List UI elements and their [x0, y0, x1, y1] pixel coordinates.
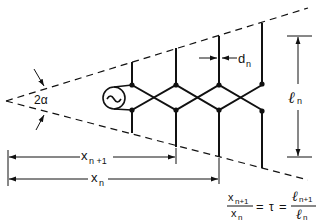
svg-text:=: = — [279, 199, 287, 214]
x-n-label: x — [91, 170, 98, 185]
svg-text:ℓ: ℓ — [296, 207, 302, 222]
ac-source-icon — [103, 85, 132, 110]
x-n-plus-1-sub: n +1 — [89, 156, 107, 166]
svg-text:n+1: n+1 — [299, 195, 313, 204]
svg-text:x: x — [231, 207, 237, 219]
spacing-label-sub: n — [246, 59, 251, 69]
log-periodic-antenna-diagram: 2α d n ℓ n — [0, 0, 333, 224]
length-label-sub: n — [297, 96, 302, 106]
feed-line — [132, 85, 262, 110]
svg-text:n: n — [238, 213, 242, 222]
svg-text:n: n — [303, 213, 307, 222]
ratio-formula: x n+1 x n = τ = ℓ n+1 ℓ n — [227, 189, 316, 222]
angle-arrow-top — [34, 69, 44, 86]
svg-text:=: = — [256, 199, 264, 214]
x-n-sub: n — [99, 178, 104, 188]
svg-text:n+1: n+1 — [235, 197, 249, 206]
length-label: ℓ — [288, 89, 295, 106]
svg-text:x: x — [228, 191, 234, 203]
svg-text:τ: τ — [269, 200, 274, 214]
svg-text:ℓ: ℓ — [292, 189, 298, 204]
distance-dimensions — [8, 148, 219, 186]
angle-arrow-bottom — [36, 115, 44, 130]
spacing-label: d — [238, 51, 245, 66]
angle-label: 2α — [34, 93, 48, 107]
x-n-plus-1-label: x — [81, 148, 88, 163]
